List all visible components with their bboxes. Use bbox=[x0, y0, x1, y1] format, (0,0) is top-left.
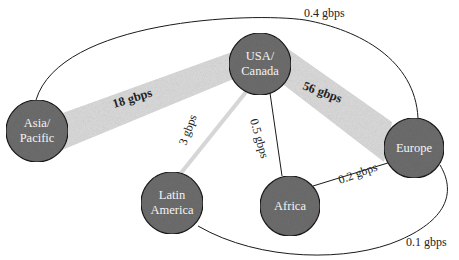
node-asia-pacific: Asia/ Pacific bbox=[6, 100, 68, 162]
node-label-line1: Asia/ bbox=[24, 116, 51, 130]
label-0-1-gbps: 0.1 gbps bbox=[406, 235, 447, 249]
label-3-gbps: 3 gbps bbox=[176, 112, 200, 147]
node-latin-america: Latin America bbox=[141, 172, 203, 234]
network-bandwidth-diagram: 18 gbps 56 gbps 3 gbps 0.5 gbps 0.2 gbps… bbox=[0, 0, 459, 260]
node-label-line2: Canada bbox=[241, 64, 279, 78]
node-europe: Europe bbox=[384, 118, 444, 178]
node-label-line1: Latin bbox=[159, 188, 186, 202]
node-label-line1: USA/ bbox=[246, 49, 275, 63]
label-0-2-gbps: 0.2 gbps bbox=[336, 160, 379, 187]
node-africa: Africa bbox=[260, 176, 320, 236]
node-usa-canada: USA/ Canada bbox=[229, 33, 291, 95]
node-label-line1: Africa bbox=[274, 199, 306, 213]
label-0-5-gbps: 0.5 gbps bbox=[247, 117, 272, 160]
label-0-4-gbps: 0.4 gbps bbox=[304, 6, 345, 20]
line-usa-africa bbox=[270, 93, 282, 176]
node-label-line2: America bbox=[150, 203, 193, 217]
node-label-line1: Europe bbox=[396, 141, 433, 155]
node-label-line2: Pacific bbox=[20, 131, 55, 145]
